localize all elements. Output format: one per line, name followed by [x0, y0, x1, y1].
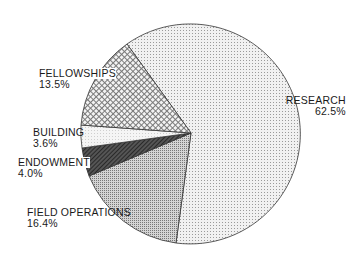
label-field-operations-pct: 16.4% [27, 218, 131, 229]
label-field-operations: FIELD OPERATIONS 16.4% [27, 207, 131, 229]
label-research-pct: 62.5% [283, 106, 346, 117]
label-building: BUILDING 3.6% [33, 127, 84, 149]
label-building-pct: 3.6% [33, 138, 84, 149]
label-endowment: ENDOWMENT 4.0% [18, 157, 90, 179]
label-fellowships: FELLOWSHIPS 13.5% [39, 68, 116, 90]
label-endowment-pct: 4.0% [18, 168, 90, 179]
label-research: RESEARCH 62.5% [283, 95, 346, 117]
label-fellowships-pct: 13.5% [39, 79, 116, 90]
